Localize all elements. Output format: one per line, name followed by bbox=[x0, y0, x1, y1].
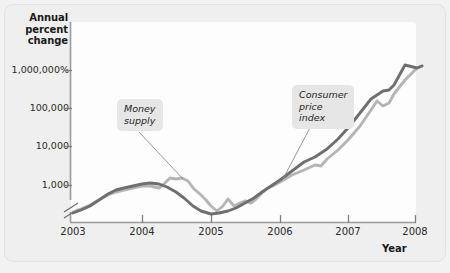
y-tick-label-2: 10,000 bbox=[3, 140, 69, 151]
annotation-money-supply-line-2: supply bbox=[124, 115, 156, 127]
y-axis-title-line-1: Annual bbox=[18, 12, 68, 24]
annotation-consumer-price-index: Consumer price index bbox=[292, 85, 354, 129]
x-tick-label-5: 2008 bbox=[392, 226, 438, 237]
y-tick-label-3: 1,000 bbox=[3, 179, 69, 190]
y-axis-title-line-2: percent bbox=[18, 24, 68, 36]
chart-figure: Annual percent change Year 1,000,000% 10… bbox=[0, 0, 450, 273]
annotation-cpi-line-1: Consumer bbox=[299, 89, 347, 101]
x-tick-label-2: 2005 bbox=[188, 226, 234, 237]
y-axis-title: Annual percent change bbox=[18, 12, 68, 47]
y-tick-label-1: 100,000 bbox=[3, 102, 69, 113]
x-axis-title: Year bbox=[382, 243, 407, 254]
y-axis-title-line-3: change bbox=[18, 35, 68, 47]
x-tick-label-1: 2004 bbox=[119, 226, 165, 237]
annotation-money-supply-line-1: Money bbox=[124, 103, 156, 115]
annotation-money-supply: Money supply bbox=[117, 99, 163, 131]
annotation-cpi-line-3: index bbox=[299, 112, 347, 124]
y-tick-label-0: 1,000,000% bbox=[3, 64, 69, 75]
x-tick-label-4: 2007 bbox=[325, 226, 371, 237]
x-tick-label-3: 2006 bbox=[257, 226, 303, 237]
x-tick-label-0: 2003 bbox=[50, 226, 96, 237]
annotation-cpi-line-2: price bbox=[299, 101, 347, 113]
